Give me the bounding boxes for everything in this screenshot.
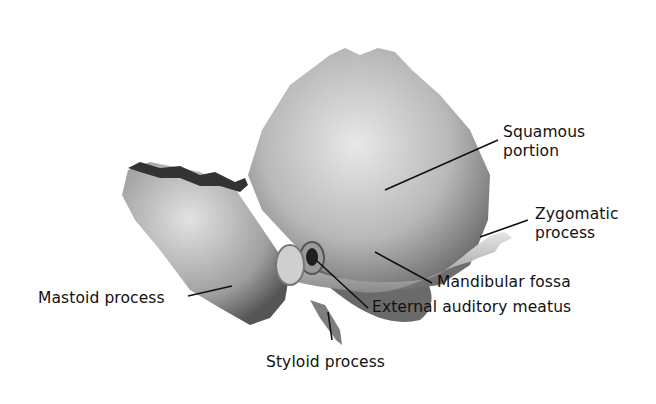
label-mandibular-fossa: Mandibular fossa (437, 273, 571, 292)
temporal-bone-illustration (0, 0, 656, 404)
label-mastoid-process: Mastoid process (38, 289, 165, 308)
label-zygomatic-process: Zygomatic process (535, 205, 619, 243)
label-styloid-process: Styloid process (266, 353, 385, 372)
label-external-auditory-meatus: External auditory meatus (372, 298, 571, 317)
styloid-process (310, 300, 342, 345)
label-squamous-portion: Squamous portion (503, 123, 585, 161)
